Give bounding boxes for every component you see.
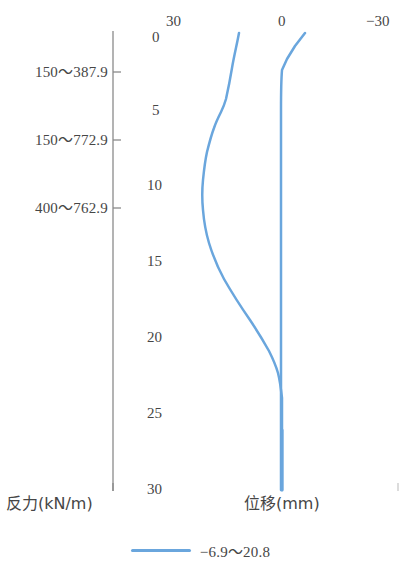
series-displacement-line [281, 33, 305, 490]
legend: −6.9～20.8 [0, 540, 401, 561]
reaction-tick-label-1: 150～387.9 [4, 65, 108, 80]
displacement-tick-label-zero: 0 [278, 14, 286, 29]
depth-tick-label-30: 30 [147, 482, 162, 497]
reaction-tick-label-3: 400～762.9 [4, 201, 108, 216]
depth-tick-label-10: 10 [147, 178, 162, 193]
legend-entry-label: −6.9～20.8 [200, 540, 270, 561]
series-reaction-line [202, 33, 282, 490]
displacement-tick-label-neg30: −30 [366, 14, 389, 29]
displacement-axis-caption: 位移(mm) [244, 496, 320, 512]
depth-tick-label-5: 5 [152, 103, 160, 118]
reaction-axis-caption-text: 反力(kN/m) [6, 494, 93, 513]
displacement-tick-label-pos30: 30 [166, 14, 181, 29]
reaction-tick-label-2: 150～772.9 [4, 133, 108, 148]
legend-color-swatch [131, 549, 191, 552]
reaction-axis-caption: 反力(kN/m) [6, 496, 93, 512]
depth-tick-label-20: 20 [147, 330, 162, 345]
plot-svg [0, 0, 401, 568]
displacement-axis-caption-text: 位移(mm) [244, 494, 320, 513]
reaction-axis-spine [113, 31, 121, 491]
figure-container: 150～387.9 150～772.9 400～762.9 0 5 10 15 … [0, 0, 401, 568]
depth-tick-label-25: 25 [147, 406, 162, 421]
depth-tick-label-0: 0 [152, 30, 160, 45]
depth-tick-label-15: 15 [147, 254, 162, 269]
